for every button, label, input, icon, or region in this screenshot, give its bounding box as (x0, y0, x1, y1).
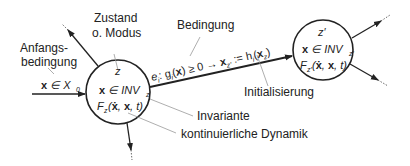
arrow-tail-dashed (131, 150, 132, 160)
label-invariant: Invariante (197, 109, 250, 123)
outgoing-arrow-right-top (352, 21, 381, 38)
svg-text:(ẋ, x, t): (ẋ, x, t) (108, 100, 143, 112)
svg-text:(ẋ, x, t): (ẋ, x, t) (312, 59, 347, 71)
label-initial-line1: Anfangs- (20, 41, 68, 55)
svg-text:z: z (145, 91, 150, 98)
svg-text:0: 0 (76, 86, 80, 93)
state-z-prime-dynamics: F z′ (ẋ, x, t) (300, 59, 347, 73)
svg-text:z′: z′ (348, 50, 355, 57)
leader-condition (190, 37, 200, 56)
leader-invariant (150, 99, 193, 116)
label-condition: Bedingung (177, 18, 234, 32)
arrow-tail-dashed (378, 80, 388, 86)
state-z-name: z (114, 65, 121, 77)
svg-text:x ∈ INV: x ∈ INV (99, 84, 141, 96)
state-z-prime-name: z′ (317, 26, 327, 38)
state-z-dynamics: F z (ẋ, x, t) (97, 100, 143, 114)
initial-condition-expr: x ∈ X 0 (41, 79, 80, 93)
arrow-tail-dashed (381, 15, 390, 21)
svg-text:x ∈ INV: x ∈ INV (302, 43, 344, 55)
label-state-line2: o. Modus (92, 26, 141, 40)
svg-text:x ∈ X: x ∈ X (41, 79, 71, 91)
state-z-invariant: x ∈ INV z (99, 84, 150, 98)
label-initial-line2: bedingung (21, 55, 77, 69)
state-z-prime-invariant: x ∈ INV z′ (302, 43, 355, 57)
label-state-line1: Zustand (94, 11, 137, 25)
outgoing-arrow-bottom (127, 123, 131, 150)
label-continuous-dynamics: kontinuierliche Dynamik (181, 127, 309, 141)
outgoing-arrow-right-bottom (350, 64, 378, 80)
label-initialization: Initialisierung (244, 85, 314, 99)
arrow-tail-dashed (62, 24, 68, 30)
hybrid-automaton-diagram: Zustand o. Modus Anfangs- bedingung x ∈ … (0, 0, 410, 166)
leader-dynamics (128, 113, 176, 133)
